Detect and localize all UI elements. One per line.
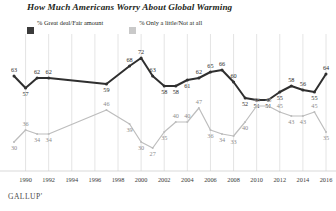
data-label: 33	[230, 138, 236, 145]
data-point	[290, 85, 293, 88]
data-point	[105, 109, 107, 111]
data-point	[233, 135, 235, 137]
data-point	[36, 77, 39, 80]
data-point	[48, 133, 50, 135]
data-label: 36	[207, 132, 213, 139]
legend-label-great-deal: % Great deal/Fair amount	[37, 19, 103, 27]
data-point	[221, 69, 224, 72]
data-point	[278, 91, 281, 94]
data-label: 72	[138, 48, 144, 55]
data-point	[174, 85, 177, 88]
x-axis-tick-2000: 2000	[135, 176, 148, 183]
data-point	[221, 133, 223, 135]
data-label: 36	[22, 120, 28, 127]
data-point	[24, 87, 27, 90]
data-label: 56	[300, 80, 306, 87]
data-point	[163, 131, 165, 133]
data-label: 34	[219, 136, 225, 143]
data-point	[152, 147, 154, 149]
data-label: 45	[277, 102, 283, 109]
data-label: 35	[161, 134, 167, 141]
data-label: 58	[173, 88, 179, 95]
x-axis-tick-2006: 2006	[204, 176, 217, 183]
data-point	[325, 73, 328, 76]
light-swatch-icon	[129, 27, 136, 34]
data-label: 46	[103, 100, 109, 107]
data-label: 43	[288, 118, 294, 125]
data-point	[302, 115, 304, 117]
x-axis-tick-2002: 2002	[158, 176, 171, 183]
data-point	[186, 121, 188, 123]
data-label: 62	[196, 68, 202, 75]
data-point	[244, 97, 247, 100]
data-point	[232, 81, 235, 84]
x-axis: 1990199219941996199820002002200420062008…	[0, 176, 336, 188]
data-label: 48	[254, 96, 260, 103]
data-label: 35	[323, 134, 329, 141]
data-label: 45	[311, 102, 317, 109]
gallup-line-chart: How Much Americans Worry About Global Wa…	[0, 0, 336, 211]
x-axis-tick-1996: 1996	[89, 176, 102, 183]
data-point	[105, 83, 108, 86]
data-point	[209, 129, 211, 131]
dark-swatch-icon	[27, 27, 34, 34]
data-point	[209, 71, 212, 74]
data-point	[13, 75, 16, 78]
data-point	[140, 141, 142, 143]
data-label: 27	[150, 150, 156, 157]
data-point	[313, 111, 315, 113]
data-label: 34	[46, 136, 52, 143]
data-point	[129, 123, 131, 125]
data-point	[36, 133, 38, 135]
data-label: 43	[300, 118, 306, 125]
legend-label-only-a-little: % Only a little/Not at all	[139, 19, 202, 27]
data-point	[279, 111, 281, 113]
x-axis-tick-2008: 2008	[227, 176, 240, 183]
x-axis-tick-2014: 2014	[297, 176, 310, 183]
data-label: 62	[46, 68, 52, 75]
data-label: 63	[11, 66, 17, 73]
data-label: 63	[150, 66, 156, 73]
data-point	[175, 121, 177, 123]
x-axis-tick-1990: 1990	[19, 176, 32, 183]
data-point	[151, 75, 154, 78]
data-label: 59	[103, 86, 109, 93]
data-point	[25, 129, 27, 131]
plot-area: 6357626259687263585861626566605251515558…	[0, 34, 336, 174]
data-point	[256, 105, 258, 107]
data-point	[163, 85, 166, 88]
data-label: 40	[184, 112, 190, 119]
data-label: 58	[288, 76, 294, 83]
plot-svg: 6357626259687263585861626566605251515558…	[0, 34, 336, 174]
data-label: 64	[323, 64, 329, 71]
data-point	[267, 105, 269, 107]
data-point	[197, 77, 200, 80]
data-label: 55	[311, 94, 317, 101]
data-point	[47, 77, 50, 80]
x-axis-tick-1998: 1998	[112, 176, 125, 183]
data-label: 68	[126, 56, 132, 63]
x-axis-tick-2010: 2010	[250, 176, 263, 183]
data-label: 55	[277, 94, 283, 101]
data-label: 40	[242, 124, 248, 131]
data-label: 57	[22, 90, 28, 97]
data-label: 66	[219, 60, 225, 67]
data-point	[313, 91, 316, 94]
data-label: 62	[34, 68, 40, 75]
data-label: 30	[11, 144, 17, 151]
chart-title: How Much Americans Worry About Global Wa…	[27, 2, 232, 12]
data-point	[244, 121, 246, 123]
data-label: 30	[138, 144, 144, 151]
data-label: 61	[184, 82, 190, 89]
data-point	[128, 65, 131, 68]
data-point	[140, 57, 143, 60]
chart-legend: % Great deal/Fair amount % Only a little…	[27, 19, 202, 29]
gallup-brand: GALLUP'	[8, 192, 42, 201]
data-point	[290, 115, 292, 117]
data-point	[186, 79, 189, 82]
data-label: 47	[196, 98, 202, 105]
x-axis-tick-2004: 2004	[181, 176, 194, 183]
x-axis-tick-2012: 2012	[273, 176, 286, 183]
data-label: 39	[126, 126, 132, 133]
data-point	[301, 89, 304, 92]
